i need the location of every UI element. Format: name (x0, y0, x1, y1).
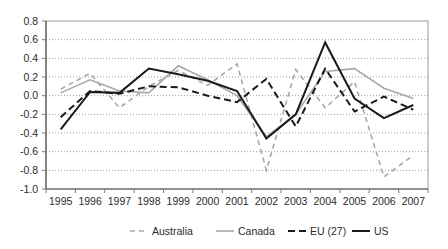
legend-label-eu-27: EU (27) (310, 225, 346, 237)
x-axis-tick-label: 2004 (313, 195, 337, 207)
plot-area-border (46, 21, 428, 189)
legend-label-us: US (374, 225, 389, 237)
x-axis-tick-label: 2002 (255, 195, 279, 207)
x-axis-tick-label: 2005 (343, 195, 367, 207)
y-axis-tick-label: 0.0 (23, 89, 38, 101)
x-axis-tick-label: 1998 (137, 195, 161, 207)
y-axis-tick-label: -0.4 (20, 127, 38, 139)
chart-canvas: 0.80.60.40.20.0-0.2-0.4-0.6-0.8-1.019951… (0, 0, 448, 249)
x-axis-tick-label: 2007 (402, 195, 426, 207)
x-axis-tick-label: 1999 (167, 195, 191, 207)
x-axis-tick-label: 2001 (225, 195, 249, 207)
y-axis-tick-label: 0.8 (23, 15, 38, 27)
y-axis-tick-label: -0.2 (20, 108, 38, 120)
x-axis-tick-label: 2000 (196, 195, 220, 207)
legend-label-australia: Australia (152, 225, 193, 237)
y-axis-tick-label: 0.2 (23, 71, 38, 83)
x-axis-tick-label: 1996 (78, 195, 102, 207)
x-axis-tick-label: 1995 (49, 195, 73, 207)
x-axis-tick-label: 2003 (284, 195, 308, 207)
y-axis-tick-label: 0.6 (23, 33, 38, 45)
legend-label-canada: Canada (238, 225, 275, 237)
y-axis-tick-label: 0.4 (23, 52, 38, 64)
y-axis-tick-label: -0.6 (20, 145, 38, 157)
x-axis-tick-label: 1997 (108, 195, 132, 207)
y-axis-tick-label: -0.8 (20, 164, 38, 176)
line-chart: 0.80.60.40.20.0-0.2-0.4-0.6-0.8-1.019951… (0, 0, 448, 249)
x-axis-tick-label: 2006 (372, 195, 396, 207)
y-axis-tick-label: -1.0 (20, 183, 38, 195)
